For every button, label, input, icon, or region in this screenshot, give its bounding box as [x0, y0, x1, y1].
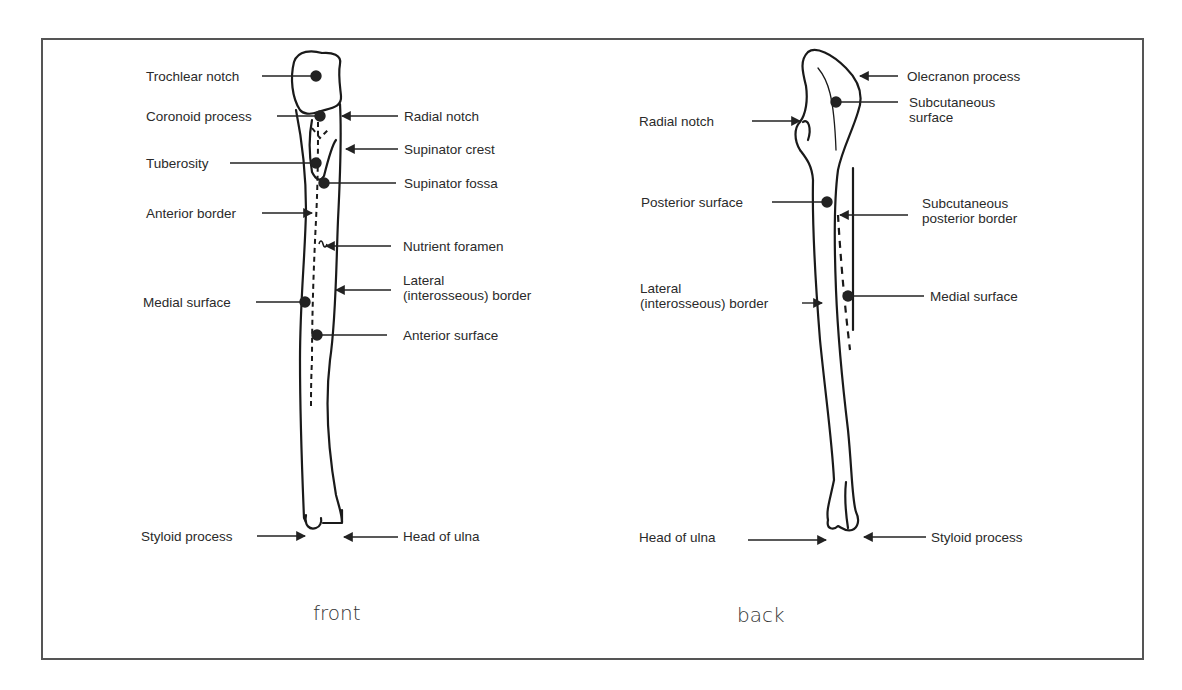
label-subcutaneous-surface: Subcutaneous surface [909, 95, 995, 125]
label-styloid-process-front: Styloid process [141, 529, 233, 544]
label-lateral-border-front: Lateral (interosseous) border [403, 273, 531, 303]
label-styloid-process-back: Styloid process [931, 530, 1023, 545]
label-head-of-ulna-front: Head of ulna [403, 529, 480, 544]
view-title-front: front [313, 601, 361, 625]
label-coronoid-process: Coronoid process [146, 109, 252, 124]
label-radial-notch-back: Radial notch [639, 114, 714, 129]
label-anterior-surface: Anterior surface [403, 328, 498, 343]
label-posterior-surface: Posterior surface [641, 195, 743, 210]
label-tuberosity: Tuberosity [146, 156, 209, 171]
label-supinator-fossa: Supinator fossa [404, 176, 498, 191]
label-line: Lateral [403, 273, 531, 288]
label-anterior-border: Anterior border [146, 206, 236, 221]
label-trochlear-notch: Trochlear notch [146, 69, 239, 84]
label-head-of-ulna-back: Head of ulna [639, 530, 716, 545]
label-subcutaneous-posterior-border: Subcutaneous posterior border [922, 196, 1017, 226]
ulna-diagram [0, 0, 1182, 690]
label-line: (interosseous) border [403, 288, 531, 303]
view-title-back: back [737, 603, 785, 627]
back-ulna-bone [796, 50, 861, 531]
label-line: (interosseous) border [640, 296, 768, 311]
label-medial-surface-front: Medial surface [143, 295, 231, 310]
label-line: Subcutaneous [909, 95, 995, 110]
label-olecranon-process: Olecranon process [907, 69, 1020, 84]
label-line: Lateral [640, 281, 768, 296]
front-leaders [230, 71, 398, 537]
label-line: surface [909, 110, 995, 125]
label-supinator-crest: Supinator crest [404, 142, 495, 157]
nutrient-foramen-mark [319, 241, 327, 247]
label-lateral-border-back: Lateral (interosseous) border [640, 281, 768, 311]
back-posterior-border-dashed [838, 215, 850, 350]
label-nutrient-foramen: Nutrient foramen [403, 239, 504, 254]
label-line: Subcutaneous [922, 196, 1017, 211]
label-radial-notch-front: Radial notch [404, 109, 479, 124]
label-line: posterior border [922, 211, 1017, 226]
label-medial-surface-back: Medial surface [930, 289, 1018, 304]
